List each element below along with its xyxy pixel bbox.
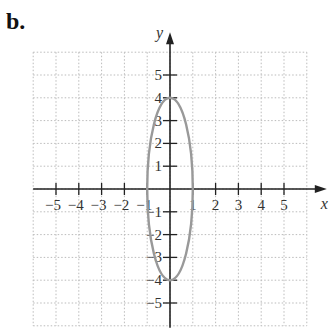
- y-tick-label: 5: [155, 67, 163, 83]
- x-tick-label: 4: [257, 197, 265, 213]
- x-tick-label: −2: [113, 197, 129, 213]
- x-axis-arrow-icon: [315, 185, 327, 193]
- x-tick-label: −3: [91, 197, 107, 213]
- x-tick-label: −4: [68, 197, 84, 213]
- y-axis-label: y: [154, 24, 164, 42]
- ellipse-graph: xy−5−4−3−2−11234554321−1−2−3−4−5: [0, 0, 336, 335]
- x-ticks: −5−4−3−2−112345: [45, 183, 288, 213]
- x-tick-label: −5: [45, 197, 61, 213]
- y-tick-label: 1: [155, 158, 163, 174]
- y-tick-label: −4: [146, 272, 162, 288]
- x-axis-label: x: [320, 195, 328, 212]
- x-tick-label: 5: [280, 197, 288, 213]
- y-tick-label: −5: [146, 295, 162, 311]
- y-axis-arrow-icon: [166, 32, 174, 44]
- x-tick-label: 2: [212, 197, 220, 213]
- x-tick-label: 3: [235, 197, 243, 213]
- y-tick-label: 2: [155, 135, 163, 151]
